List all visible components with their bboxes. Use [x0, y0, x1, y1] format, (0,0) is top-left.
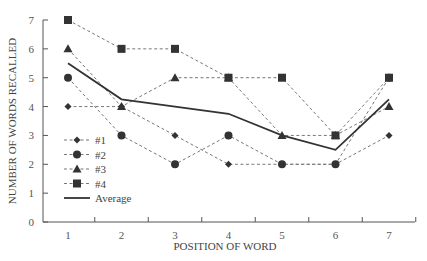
x-tick-label: 5 — [279, 229, 285, 241]
legend-item: #1 — [64, 134, 106, 146]
diamond-marker — [386, 132, 393, 139]
legend-item: Average — [64, 192, 132, 204]
square-marker — [278, 74, 286, 82]
y-tick-label: 3 — [29, 129, 35, 141]
square-marker — [171, 45, 179, 53]
y-tick-label: 4 — [29, 101, 35, 113]
circle-marker — [332, 160, 340, 168]
triangle-marker — [64, 44, 73, 52]
y-tick-label: 5 — [29, 72, 35, 84]
y-tick-label: 2 — [29, 158, 35, 170]
circle-marker — [64, 74, 72, 82]
diamond-marker — [225, 161, 232, 168]
square-icon — [73, 180, 81, 188]
series-3 — [64, 44, 394, 139]
x-tick-label: 7 — [386, 229, 392, 241]
square-marker — [332, 131, 340, 139]
line-chart: 012345671234567 #1#2#3#4Average POSITION… — [0, 0, 427, 261]
legend-item: #2 — [64, 149, 106, 161]
triangle-icon — [73, 165, 82, 173]
y-axis-title: NUMBER OF WORDS RECALLED — [6, 38, 18, 204]
x-axis-title: POSITION OF WORD — [173, 240, 276, 252]
y-tick-label: 6 — [29, 43, 35, 55]
x-tick-label: 1 — [65, 229, 71, 241]
circle-icon — [73, 151, 81, 159]
legend-label: #3 — [95, 163, 107, 175]
legend-label: Average — [95, 192, 132, 204]
square-marker — [64, 16, 72, 24]
square-marker — [118, 45, 126, 53]
legend-label: #2 — [95, 149, 106, 161]
series-line — [68, 49, 389, 136]
diamond-marker — [65, 103, 72, 110]
legend: #1#2#3#4Average — [64, 134, 132, 204]
square-marker — [385, 74, 393, 82]
triangle-marker — [171, 73, 180, 81]
circle-marker — [171, 160, 179, 168]
y-tick-label: 1 — [29, 187, 35, 199]
square-marker — [225, 74, 233, 82]
series-group — [64, 16, 394, 168]
legend-item: #4 — [64, 178, 107, 190]
diamond-marker — [172, 132, 179, 139]
legend-label: #4 — [95, 178, 107, 190]
x-tick-label: 6 — [333, 229, 339, 241]
circle-marker — [225, 131, 233, 139]
y-tick-label: 7 — [29, 14, 35, 26]
circle-marker — [118, 131, 126, 139]
axes: 012345671234567 — [29, 14, 416, 241]
legend-label: #1 — [95, 134, 106, 146]
x-tick-label: 2 — [119, 229, 125, 241]
circle-marker — [278, 160, 286, 168]
diamond-icon — [74, 137, 81, 144]
series-line — [68, 78, 389, 165]
series-4 — [64, 16, 393, 139]
series-2 — [64, 74, 393, 169]
legend-item: #3 — [64, 163, 107, 175]
y-tick-label: 0 — [29, 216, 35, 228]
